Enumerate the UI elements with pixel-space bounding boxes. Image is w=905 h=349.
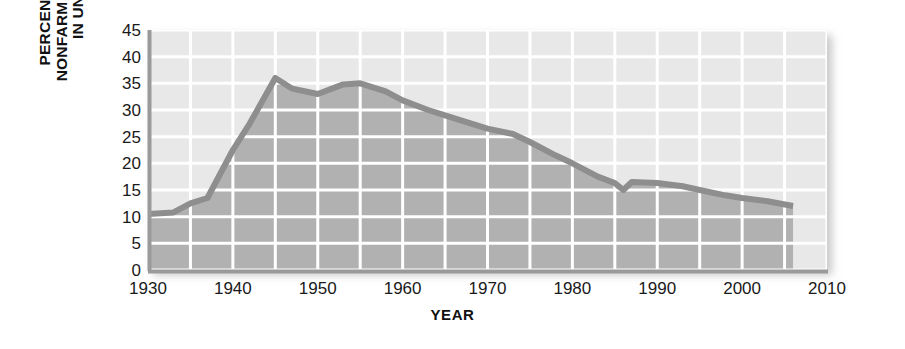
x-axis-title: YEAR <box>0 306 905 323</box>
x-tick-label-1970: 1970 <box>469 280 507 297</box>
x-axis-tick-labels: 193019401950196019701980199020002010 <box>0 0 905 349</box>
x-tick-label-1950: 1950 <box>299 280 337 297</box>
x-tick-label-2010: 2010 <box>808 280 846 297</box>
chart-figure: PERCENTAGE OF NONFARM WORKERS IN UNIONS … <box>0 0 905 349</box>
x-tick-label-1960: 1960 <box>384 280 422 297</box>
x-tick-label-1940: 1940 <box>214 280 252 297</box>
x-tick-label-1990: 1990 <box>638 280 676 297</box>
x-tick-label-1980: 1980 <box>553 280 591 297</box>
x-tick-label-1930: 1930 <box>129 280 167 297</box>
x-tick-label-2000: 2000 <box>723 280 761 297</box>
